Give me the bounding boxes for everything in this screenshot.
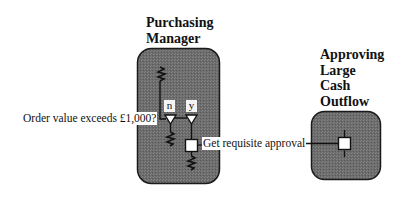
lane-title-approving-large-cash-outflow: Approving Large Cash Outflow	[320, 47, 384, 109]
lane-title-line: Large	[320, 63, 384, 79]
action-node-get-approval[interactable]	[186, 140, 198, 152]
lane-title-line: Manager	[146, 31, 213, 47]
decision-label: Order value exceeds £1,000?	[22, 112, 157, 125]
action-label: Get requisite approval	[202, 137, 306, 150]
lane-title-line: Cash	[320, 78, 384, 94]
lane-title-line: Purchasing	[146, 15, 213, 31]
lane-title-line: Outflow	[320, 94, 384, 110]
branch-tag-n: n	[164, 100, 175, 112]
approval-node[interactable]	[339, 138, 351, 150]
branch-tag-y: y	[186, 100, 197, 112]
lane-title-line: Approving	[320, 47, 384, 63]
lane-title-purchasing-manager: Purchasing Manager	[146, 15, 213, 46]
